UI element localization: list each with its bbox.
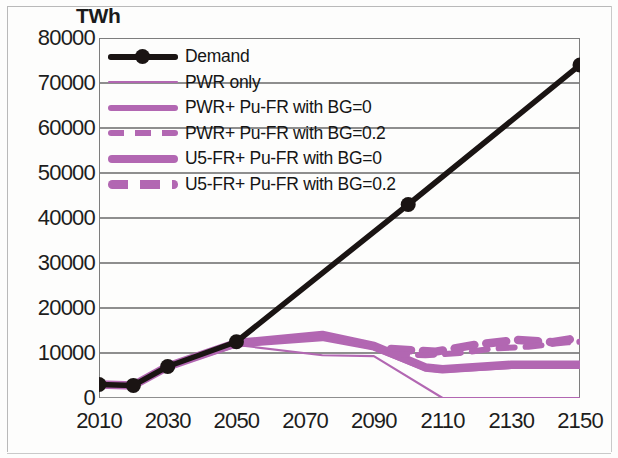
legend-item: PWR+ Pu-FR with BG=0 (108, 95, 408, 121)
legend-item: Demand (108, 44, 408, 70)
data-point-marker (126, 378, 141, 393)
legend-label: U5-FR+ Pu-FR with BG=0.2 (185, 174, 396, 195)
x-axis-tick-label: 2070 (282, 408, 328, 434)
legend-item: U5-FR+ Pu-FR with BG=0.2 (108, 172, 408, 198)
x-axis-tick-label: 2090 (351, 408, 397, 434)
legend-label: U5-FR+ Pu-FR with BG=0 (185, 148, 382, 169)
x-axis-tick-label: 2150 (557, 408, 603, 434)
legend-swatch (108, 73, 178, 91)
x-axis-tick-label: 2050 (214, 408, 260, 434)
legend-item: U5-FR+ Pu-FR with BG=0 (108, 146, 408, 172)
data-point-marker (160, 359, 175, 374)
legend-swatch (108, 48, 178, 66)
legend-swatch (108, 99, 178, 117)
legend-swatch (108, 124, 178, 142)
data-point-marker (99, 377, 107, 392)
data-point-marker (229, 334, 244, 349)
legend-label: PWR+ Pu-FR with BG=0 (185, 97, 372, 118)
legend-label: PWR+ Pu-FR with BG=0.2 (185, 123, 386, 144)
data-point-marker (401, 197, 416, 212)
x-axis-tick-label: 2010 (76, 408, 122, 434)
legend-swatch (108, 150, 178, 168)
chart-legend: DemandPWR onlyPWR+ Pu-FR with BG=0PWR+ P… (108, 44, 408, 197)
legend-swatch (108, 175, 178, 193)
legend-marker-dot (135, 49, 150, 64)
legend-label: PWR only (185, 72, 260, 93)
legend-item: PWR+ Pu-FR with BG=0.2 (108, 121, 408, 147)
legend-item: PWR only (108, 70, 408, 96)
x-axis-tick-label: 2030 (145, 408, 191, 434)
legend-label: Demand (185, 46, 249, 67)
x-axis-tick-label: 2130 (488, 408, 534, 434)
x-axis-tick-label: 2110 (421, 408, 465, 434)
chart-figure: TWh 010000200003000040000500006000070000… (0, 0, 618, 458)
